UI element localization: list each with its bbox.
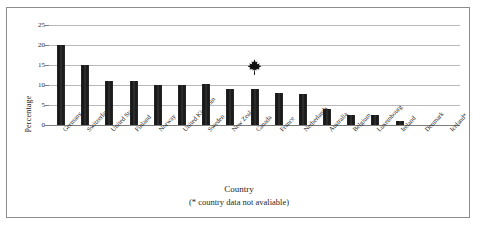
y-axis-title-label: Percentage <box>24 95 33 132</box>
bar-united-states <box>105 81 113 125</box>
figure-container: Percentage 0510152025 GermanySwitzerland… <box>0 0 480 231</box>
y-axis-tick-label: 5 <box>42 102 46 109</box>
x-axis-category-labels: GermanySwitzerlandUnited StatesFinlandNo… <box>49 126 460 172</box>
bar-new-zealand <box>226 89 234 125</box>
bar-netherlands <box>299 94 307 125</box>
y-axis-tick-label: 25 <box>38 22 45 29</box>
figure-frame: Percentage 0510152025 GermanySwitzerland… <box>6 7 470 218</box>
bar-united-kingdom <box>178 85 186 125</box>
y-axis-tick-label: 10 <box>38 82 45 89</box>
x-axis-footnote: (* country data not avaliable) <box>7 197 471 207</box>
y-axis-tick-label: 15 <box>38 62 45 69</box>
y-axis-tick-label: 0 <box>42 122 46 129</box>
bar-norway <box>154 85 162 125</box>
maple-leaf-icon <box>247 59 262 75</box>
y-axis-tick-label: 20 <box>38 42 45 49</box>
y-axis-title: Percentage <box>16 36 26 114</box>
bar-switzerland <box>81 65 89 125</box>
bar-germany <box>57 45 65 125</box>
bar-france <box>275 93 283 125</box>
x-axis-title: Country <box>7 184 471 194</box>
